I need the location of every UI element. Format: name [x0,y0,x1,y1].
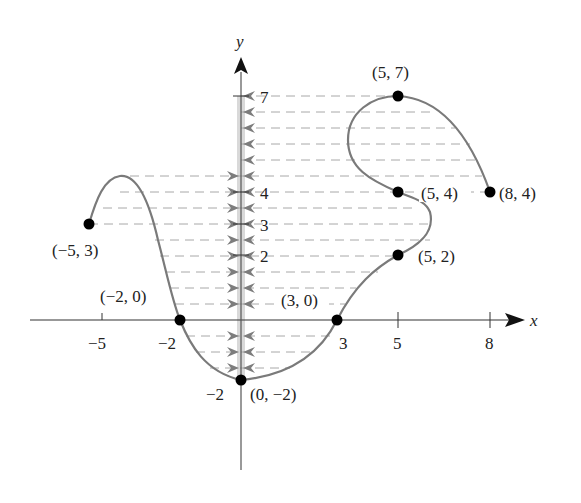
point-5-7 [393,91,404,102]
label-3-0: (3, 0) [281,291,318,310]
point-0-neg2 [236,375,247,386]
y-axis-arrow-icon [234,57,248,74]
x-tick-3: 3 [339,334,348,353]
x-tick-neg5: −5 [88,334,106,353]
y-tick-neg2: −2 [206,385,224,404]
point-5-4 [393,187,404,198]
label-neg2-0: (−2, 0) [100,287,146,306]
label-8-4: (8, 4) [499,184,536,203]
y-tick-2: 2 [260,247,269,266]
y-tick-7: 7 [260,88,269,107]
point-5-2 [393,250,404,261]
relation-curve [89,96,490,380]
label-5-2: (5, 2) [418,247,455,266]
point-8-4 [485,187,496,198]
label-0-neg2: (0, −2) [250,385,296,404]
point-neg5-3 [84,219,95,230]
y-axis-label: y [234,32,244,51]
projection-lines [89,96,490,368]
x-tick-neg2: −2 [158,334,176,353]
x-tick-8: 8 [485,334,494,353]
function-range-figure: x y −5 −2 3 5 8 7 4 3 2 −2 (−5, 3) (−2, … [0,0,581,503]
label-5-7: (5, 7) [372,63,409,82]
label-5-4: (5, 4) [421,184,458,203]
data-points [84,91,496,386]
chart-svg: x y −5 −2 3 5 8 7 4 3 2 −2 (−5, 3) (−2, … [0,0,581,503]
x-axis-label: x [529,311,538,330]
y-tick-4: 4 [260,184,269,203]
label-neg5-3: (−5, 3) [52,241,98,260]
x-tick-5: 5 [393,334,402,353]
point-3-0 [332,315,343,326]
y-tick-3: 3 [260,216,269,235]
point-neg2-0 [175,315,186,326]
